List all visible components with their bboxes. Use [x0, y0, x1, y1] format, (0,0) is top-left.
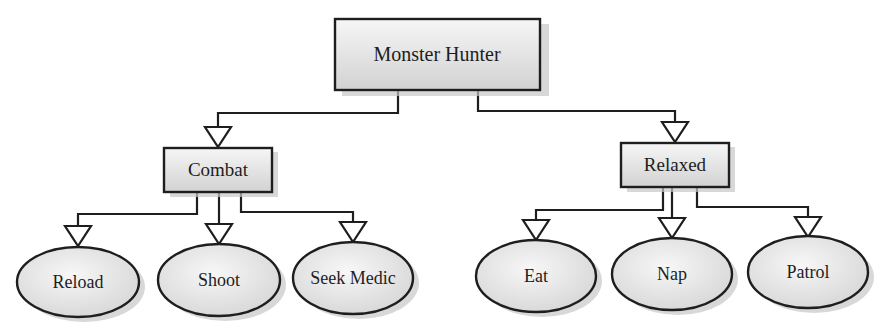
node-relaxed: Relaxed [621, 143, 735, 192]
node-label: Combat [188, 159, 249, 180]
arrow-down-icon [206, 224, 232, 244]
node-label: Shoot [198, 270, 240, 290]
node-patrol: Patrol [748, 236, 874, 313]
node-label: Patrol [787, 262, 830, 282]
arrow-down-icon [205, 127, 231, 147]
arrow-down-icon [795, 217, 821, 237]
node-combat: Combat [164, 148, 278, 197]
node-label: Eat [524, 266, 548, 286]
node-reload: Reload [17, 247, 145, 322]
arrow-down-icon [662, 122, 688, 142]
node-nap: Nap [612, 238, 738, 315]
arrow-down-icon [659, 218, 685, 238]
node-root: Monster Hunter [335, 19, 549, 96]
node-label: Relaxed [644, 154, 707, 175]
arrow-down-icon [523, 220, 549, 240]
node-label: Monster Hunter [373, 43, 501, 65]
node-label: Seek Medic [310, 268, 395, 288]
node-label: Reload [53, 272, 104, 292]
node-eat: Eat [476, 240, 602, 317]
arrow-down-icon [340, 222, 366, 242]
node-seek-medic: Seek Medic [293, 242, 419, 319]
arrow-down-icon [65, 226, 91, 246]
behavior-tree-diagram: Monster Hunter Combat Relaxed Reload Sho… [0, 0, 888, 335]
connector-combat-reload [78, 192, 197, 226]
node-label: Nap [657, 264, 687, 284]
node-shoot: Shoot [158, 244, 286, 321]
